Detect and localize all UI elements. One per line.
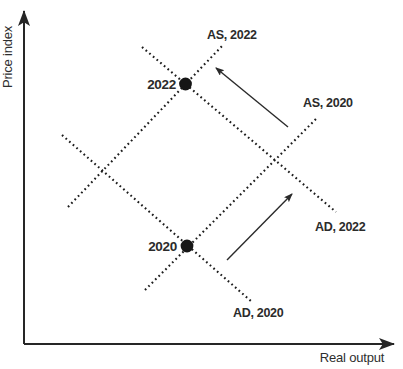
ad-2022-curve-label: AD, 2022 <box>315 220 366 234</box>
ad-2020-curve-label: AD, 2020 <box>233 306 284 320</box>
as-2020-curve <box>145 117 318 290</box>
as-2020-curve-label: AS, 2020 <box>303 96 353 110</box>
ad-2022-curve <box>142 47 336 212</box>
x-axis-label: Real output <box>320 350 385 365</box>
y-axis-label: Price index <box>0 25 15 88</box>
adas-diagram-page: Price index Real output AS, 2022 AS, 202… <box>0 0 403 369</box>
as-2022-curve <box>68 45 223 207</box>
ad-shift-arrow <box>227 194 292 260</box>
equilibrium-2020-point <box>181 240 194 253</box>
equilibrium-2022-label: 2022 <box>147 77 176 92</box>
as-2022-curve-label: AS, 2022 <box>207 28 257 42</box>
equilibrium-2020-label: 2020 <box>148 239 177 254</box>
adas-diagram: Price index Real output AS, 2022 AS, 202… <box>0 0 403 369</box>
equilibrium-2022-point <box>179 78 192 91</box>
ad-2020-curve <box>62 135 252 302</box>
